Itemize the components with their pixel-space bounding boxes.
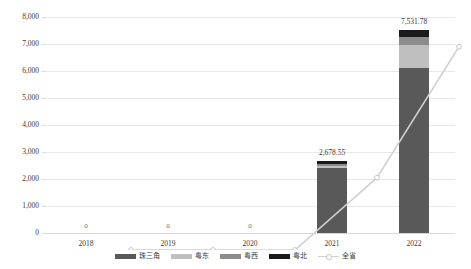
x-axis-tick-label: 2018 [79,239,94,248]
legend-swatch-icon [269,254,290,259]
y-axis-tick-label: 3,000 [22,148,39,156]
legend-swatch-icon [171,254,192,259]
x-axis-tick-label: 2020 [243,239,258,248]
y-axis-tick-label: 1,000 [22,202,39,210]
legend-item[interactable]: 粤西 [220,252,258,260]
legend-swatch-icon [220,254,241,259]
legend-item[interactable]: 全省 [318,252,356,260]
y-axis: 8,0007,0006,0005,0004,0003,0002,0001,000… [0,0,45,269]
bar-segment[interactable] [399,68,429,233]
legend-label: 珠三角 [139,252,160,260]
x-axis: 20182019202020212022 [45,234,455,254]
bar-group-2021[interactable] [317,161,347,233]
y-axis-tick-label: 0 [35,229,39,237]
legend-item[interactable]: 珠三角 [115,252,160,260]
x-axis-tick-label: 2021 [325,239,340,248]
data-label: 7,531.78 [401,17,427,26]
legend-line-marker-icon [318,254,339,259]
data-label: 2,678.55 [319,148,345,157]
y-axis-tick-label: 4,000 [22,121,39,129]
legend-label: 粤西 [244,252,258,260]
legend-swatch-icon [115,254,136,259]
legend-label: 粤东 [195,252,209,260]
y-axis-tick-label: 7,000 [22,40,39,48]
line-series-marker[interactable] [457,44,462,49]
y-axis-tick-label: 6,000 [22,67,39,75]
bar-series-layer [45,17,455,233]
legend-label: 粤北 [293,252,307,260]
data-label: 0 [84,222,88,230]
plot-area [45,17,455,233]
legend-item[interactable]: 粤东 [171,252,209,260]
legend-label: 全省 [342,252,356,260]
bar-group-2022[interactable] [399,30,429,233]
x-axis-tick-label: 2022 [407,239,422,248]
y-axis-tick-label: 5,000 [22,94,39,102]
x-axis-tick-label: 2019 [161,239,176,248]
chart-legend: 珠三角粤东粤西粤北全省 [0,252,471,260]
y-axis-tick-label: 8,000 [22,13,39,21]
data-label: 0 [166,222,170,230]
legend-item[interactable]: 粤北 [269,252,307,260]
bar-segment[interactable] [399,45,429,67]
bar-segment[interactable] [317,168,347,233]
bar-segment[interactable] [399,30,429,38]
data-label: 0 [248,222,252,230]
chart-container: 8,0007,0006,0005,0004,0003,0002,0001,000… [0,0,471,269]
y-axis-tick-label: 2,000 [22,175,39,183]
bar-segment[interactable] [399,37,429,45]
